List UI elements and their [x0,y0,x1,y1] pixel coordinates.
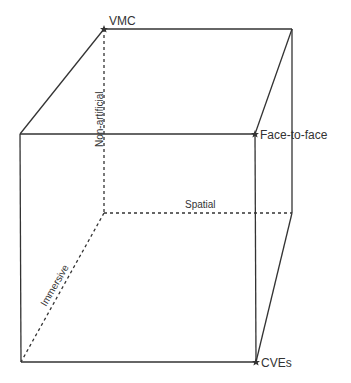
front-right-edge [255,134,256,362]
immersive-axis-label: Immersive [38,262,71,308]
front-left-edge [20,134,21,362]
bottom-right-diagonal [256,213,292,362]
spatial-axis-label: Spatial [185,199,216,210]
cube-diagram: VMC Face-to-face CVEs Non-artificial Spa… [0,0,351,383]
top-left-diagonal [20,29,104,134]
immersive-axis [21,213,104,362]
cves-label: CVEs [261,356,292,370]
cves-star-icon [252,358,260,366]
top-right-diagonal [255,29,292,134]
face-to-face-label: Face-to-face [260,128,328,142]
non-artificial-axis-label: Non-artificial [94,91,105,147]
vmc-label: VMC [109,14,136,28]
